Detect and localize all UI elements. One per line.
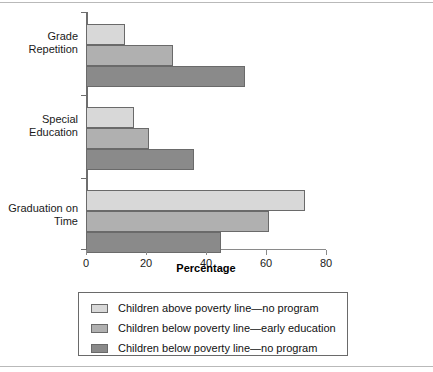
bar: [86, 232, 221, 253]
category-label-line: Grade: [0, 30, 78, 43]
bar: [86, 149, 194, 170]
bar: [86, 45, 173, 66]
figure-bottom-rule: [0, 366, 433, 367]
legend-label-2: Children below poverty line—no program: [118, 342, 317, 354]
category-label-line: Special: [0, 113, 78, 126]
category-label-graduation-on-time: Graduation onTime: [0, 202, 78, 228]
bar: [86, 66, 245, 87]
y-group-tick-2: [81, 178, 87, 179]
y-group-tick-0: [81, 12, 87, 13]
bar: [86, 190, 305, 211]
category-label-line: Time: [0, 215, 78, 228]
plot-area: 020406080: [86, 12, 326, 249]
bar: [86, 211, 269, 232]
category-label-grade-repetition: GradeRepetition: [0, 30, 78, 56]
category-label-line: Education: [0, 126, 78, 139]
legend-item-1: Children below poverty line—early educat…: [91, 319, 336, 337]
bar: [86, 107, 134, 128]
figure-top-rule: [0, 2, 433, 3]
legend-swatch-below-poverty-early-education: [91, 324, 108, 333]
x-axis-title: Percentage: [86, 262, 326, 274]
chart-legend: Children above poverty line—no program C…: [78, 292, 348, 356]
category-label-special-education: SpecialEducation: [0, 113, 78, 139]
x-tick-60: [266, 250, 267, 255]
legend-item-0: Children above poverty line—no program: [91, 299, 319, 317]
x-tick-0: [86, 250, 87, 255]
y-group-tick-1: [81, 95, 87, 96]
legend-swatch-below-poverty-no-program: [91, 344, 108, 353]
legend-item-2: Children below poverty line—no program: [91, 339, 317, 357]
category-label-line: Graduation on: [0, 202, 78, 215]
x-tick-80: [326, 250, 327, 255]
x-tick-20: [146, 250, 147, 255]
chart-figure: GradeRepetition SpecialEducation Graduat…: [0, 0, 433, 372]
bar: [86, 24, 125, 45]
x-tick-40: [206, 250, 207, 255]
legend-swatch-above-poverty-no-program: [91, 304, 108, 313]
category-label-line: Repetition: [0, 43, 78, 56]
legend-label-1: Children below poverty line—early educat…: [118, 322, 336, 334]
legend-label-0: Children above poverty line—no program: [118, 302, 319, 314]
bar: [86, 128, 149, 149]
